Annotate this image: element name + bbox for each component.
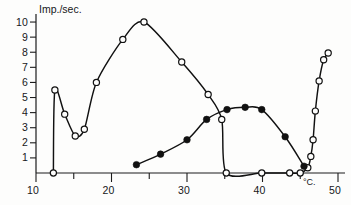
- filled-data-point: [184, 136, 191, 143]
- open-circle-curve-line: [53, 22, 328, 177]
- open-data-point: [52, 87, 58, 93]
- open-data-point: [310, 137, 316, 143]
- open-data-point: [219, 116, 225, 122]
- x-tick-label: 20: [103, 185, 115, 196]
- filled-data-point: [157, 151, 164, 158]
- open-data-point: [259, 170, 265, 176]
- open-data-point: [308, 153, 314, 159]
- open-data-point: [297, 170, 303, 176]
- y-axis-title: Imp./sec.: [39, 3, 82, 15]
- y-tick-label: 10: [16, 17, 28, 28]
- filled-data-point: [258, 106, 265, 113]
- filled-data-point: [203, 116, 210, 123]
- x-tick-label: 40: [254, 185, 266, 196]
- axis-lines: [36, 14, 345, 173]
- filled-data-point: [242, 104, 249, 111]
- chart-plot: [0, 0, 351, 205]
- filled-data-point: [282, 133, 289, 140]
- open-data-point: [316, 78, 322, 84]
- x-tick-label: 30: [178, 185, 190, 196]
- open-data-point: [312, 108, 318, 114]
- open-data-point: [120, 36, 126, 42]
- open-data-point: [72, 133, 78, 139]
- filled-data-point: [301, 163, 308, 170]
- y-tick-label: 4: [22, 107, 28, 118]
- y-tick-label: 7: [22, 62, 28, 73]
- open-data-point: [325, 50, 331, 56]
- open-data-point: [81, 126, 87, 132]
- open-data-point: [223, 170, 229, 176]
- y-tick-label: 3: [22, 122, 28, 133]
- open-data-point: [93, 79, 99, 85]
- x-tick-label: 10: [27, 185, 39, 196]
- filled-data-point: [133, 161, 140, 168]
- open-data-point: [62, 111, 68, 117]
- y-tick-label: 9: [22, 32, 28, 43]
- x-tick-label: 50: [329, 185, 341, 196]
- y-tick-label: 6: [22, 77, 28, 88]
- x-axis-unit-label: °C.: [303, 177, 316, 187]
- y-tick-label: 5: [22, 92, 28, 103]
- open-data-point: [287, 170, 293, 176]
- y-tick-label: 1: [22, 152, 28, 163]
- open-data-point: [205, 91, 211, 97]
- open-data-point: [321, 57, 327, 63]
- open-data-point: [179, 59, 185, 65]
- filled-data-point: [224, 106, 231, 113]
- open-data-point: [141, 19, 147, 25]
- figure-panel: Imp./sec. °C. 12345678910 1020304050: [0, 0, 351, 205]
- y-axis-ticks: [30, 22, 36, 158]
- y-tick-label: 2: [22, 137, 28, 148]
- open-data-point: [50, 170, 56, 176]
- y-tick-label: 8: [22, 47, 28, 58]
